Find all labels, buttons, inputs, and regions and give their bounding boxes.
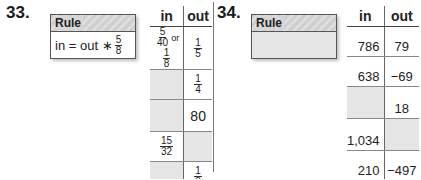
cell-in-blank[interactable] <box>150 100 184 132</box>
cell-in: 786 <box>347 27 384 57</box>
cell-out: 15 <box>184 27 212 70</box>
column-divider <box>213 2 214 172</box>
cell-in-blank[interactable] <box>150 162 184 180</box>
cell-out: 80 <box>184 100 212 132</box>
cell-in: 1,034 <box>347 119 384 151</box>
cell-out: 14 <box>184 70 212 100</box>
rule-header: Rule <box>252 15 336 32</box>
cell-in: 540or18 <box>150 27 184 70</box>
in-out-table-34: in out 786 79 638 −69 18 1,034 210 −497 <box>347 6 419 179</box>
table-row: 1,034 <box>347 119 419 151</box>
table-row: 18 <box>347 87 419 119</box>
cell-out: 79 <box>384 27 419 57</box>
header-out: out <box>184 6 212 27</box>
rule-text: in = out ∗ 5 8 <box>51 32 135 58</box>
cell-in-blank[interactable] <box>150 70 184 100</box>
cell-in: 210 <box>347 151 384 180</box>
table-row: 1532 <box>150 132 212 162</box>
header-in: in <box>150 6 184 27</box>
table-row: 638 −69 <box>347 57 419 87</box>
rule-box-33: Rule in = out ∗ 5 8 <box>50 14 136 59</box>
problem-number-33: 33. <box>6 3 30 23</box>
table-row: 786 79 <box>347 27 419 57</box>
rule-box-34: Rule <box>251 14 337 59</box>
cell-out: −497 <box>384 151 419 180</box>
table-row: 540or18 15 <box>150 27 212 70</box>
fraction: 5 8 <box>115 35 123 56</box>
rule-header: Rule <box>51 15 135 32</box>
problem-number-34: 34. <box>217 3 241 23</box>
in-out-table-33: in out 540or18 15 14 80 1532 13 <box>150 6 212 179</box>
cell-out-blank[interactable] <box>384 119 419 151</box>
header-out: out <box>384 6 419 27</box>
cell-out: −69 <box>384 57 419 87</box>
cell-in-blank[interactable] <box>347 87 384 119</box>
rule-answer-blank[interactable] <box>252 32 336 58</box>
table-row: 80 <box>150 100 212 132</box>
cell-out-blank[interactable] <box>184 132 212 162</box>
table-row: 210 −497 <box>347 151 419 180</box>
table-row: 14 <box>150 70 212 100</box>
table-row: 13 <box>150 162 212 180</box>
cell-in: 638 <box>347 57 384 87</box>
header-in: in <box>347 6 384 27</box>
cell-out: 13 <box>184 162 212 180</box>
cell-out: 18 <box>384 87 419 119</box>
cell-in: 1532 <box>150 132 184 162</box>
